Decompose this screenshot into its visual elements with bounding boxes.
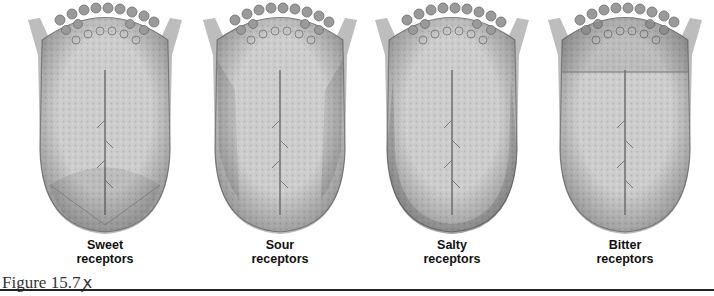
panel-bitter: Bitter receptors — [540, 0, 710, 270]
tongue-sweet-illustration — [20, 0, 190, 236]
panel-salty: Salty receptors — [367, 0, 537, 270]
tongue-salty-illustration — [367, 0, 537, 236]
label-bitter-receptors: Bitter receptors — [540, 238, 710, 266]
tongue-sour-illustration — [195, 0, 365, 236]
label-salty-receptors: Salty receptors — [367, 238, 537, 266]
tongue-bitter-illustration — [540, 0, 710, 236]
label-sweet-receptors: Sweet receptors — [20, 238, 190, 266]
panel-sweet: Sweet receptors — [20, 0, 190, 270]
caption-rule — [0, 289, 714, 291]
label-sour-receptors: Sour receptors — [195, 238, 365, 266]
panel-sour: Sour receptors — [195, 0, 365, 270]
